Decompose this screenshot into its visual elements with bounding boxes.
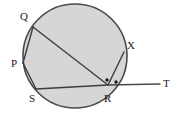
vertex-label-x: X <box>127 40 135 51</box>
vertex-label-t: T <box>163 78 170 89</box>
angle-dot-right-icon <box>114 80 117 83</box>
angle-dot-left-icon <box>105 78 108 81</box>
vertex-label-q: Q <box>20 11 28 22</box>
vertex-label-r: R <box>104 93 111 104</box>
vertex-label-p: P <box>11 58 17 69</box>
circle-shape <box>23 4 127 108</box>
geometry-figure: Q P S R X T <box>0 0 176 116</box>
vertex-label-s: S <box>29 93 35 104</box>
